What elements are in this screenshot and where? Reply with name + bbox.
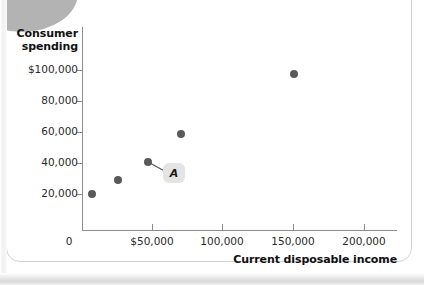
data-point-a (144, 158, 152, 166)
annotation-leader-line (0, 0, 424, 285)
data-point (88, 190, 96, 198)
scatter-plot: $100,000 80,000 60,000 40,000 20,000 0 $… (0, 0, 424, 285)
data-point (290, 70, 298, 78)
figure-page: $100,000 80,000 60,000 40,000 20,000 0 $… (0, 0, 424, 285)
data-point (114, 176, 122, 184)
data-point (177, 130, 185, 138)
annotation-label-a: A (163, 163, 185, 183)
